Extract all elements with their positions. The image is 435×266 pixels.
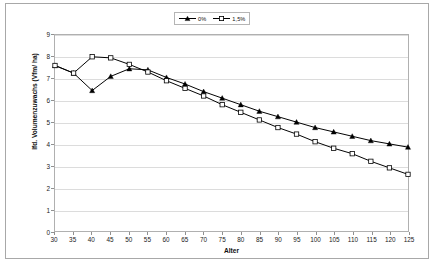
x-tick-mark — [54, 232, 55, 235]
y-tick-label: 1 — [36, 207, 50, 214]
x-tick-label: 125 — [398, 236, 420, 243]
x-tick-mark — [203, 232, 204, 235]
data-point — [239, 110, 243, 114]
data-point — [313, 140, 317, 144]
x-tick-label: 115 — [361, 236, 383, 243]
data-point — [71, 71, 75, 75]
x-tick-label: 85 — [249, 236, 271, 243]
x-tick-label: 35 — [62, 236, 84, 243]
x-tick-mark — [353, 232, 354, 235]
x-tick-mark — [316, 232, 317, 235]
x-tick-mark — [372, 232, 373, 235]
series-1 — [52, 63, 410, 149]
x-tick-mark — [185, 232, 186, 235]
legend-entry-1[interactable]: 1,5% — [213, 14, 245, 23]
data-point — [387, 166, 391, 170]
data-point — [108, 74, 113, 79]
legend-label-1: 1,5% — [232, 15, 245, 23]
legend-marker-filled-triangle-icon — [179, 14, 196, 23]
x-tick-mark — [129, 232, 130, 235]
y-tick-label: 7 — [36, 75, 50, 82]
series-2 — [53, 55, 410, 177]
legend-entry-0[interactable]: 0% — [179, 14, 206, 23]
legend-marker-open-square-icon — [213, 14, 230, 23]
plot-area — [54, 34, 409, 232]
x-tick-mark — [334, 232, 335, 235]
data-point — [257, 118, 261, 122]
x-tick-label: 75 — [211, 236, 233, 243]
y-tick-label: 4 — [36, 141, 50, 148]
x-tick-label: 40 — [80, 236, 102, 243]
data-point — [164, 79, 168, 83]
data-point — [109, 56, 113, 60]
series-line — [55, 65, 408, 147]
figure-frame: 0% 1,5% 0123456789 303540455055606570758… — [5, 3, 429, 259]
x-tick-mark — [260, 232, 261, 235]
x-tick-mark — [409, 232, 410, 235]
data-point — [406, 172, 410, 176]
x-tick-mark — [278, 232, 279, 235]
y-tick-label: 9 — [36, 31, 50, 38]
chart-root: 0% 1,5% 0123456789 303540455055606570758… — [6, 4, 430, 260]
x-tick-label: 60 — [155, 236, 177, 243]
data-point — [183, 86, 187, 90]
x-axis-title: Alter — [54, 247, 409, 254]
x-tick-mark — [297, 232, 298, 235]
data-point — [276, 125, 280, 129]
data-point — [146, 70, 150, 74]
series-line — [55, 57, 408, 175]
data-point — [331, 146, 335, 150]
data-point — [201, 94, 205, 98]
y-tick-label: 8 — [36, 53, 50, 60]
x-tick-label: 55 — [136, 236, 158, 243]
data-point — [127, 62, 131, 66]
x-tick-label: 95 — [286, 236, 308, 243]
x-tick-label: 70 — [192, 236, 214, 243]
x-tick-label: 50 — [118, 236, 140, 243]
x-tick-label: 90 — [267, 236, 289, 243]
x-tick-label: 105 — [323, 236, 345, 243]
data-point — [201, 89, 206, 94]
x-tick-label: 100 — [305, 236, 327, 243]
x-tick-mark — [222, 232, 223, 235]
x-tick-label: 65 — [174, 236, 196, 243]
x-tick-mark — [390, 232, 391, 235]
y-tick-label: 3 — [36, 163, 50, 170]
y-tick-label: 0 — [36, 229, 50, 236]
y-tick-label: 6 — [36, 97, 50, 104]
x-tick-mark — [166, 232, 167, 235]
x-tick-label: 30 — [43, 236, 65, 243]
legend-label-0: 0% — [198, 15, 206, 23]
x-tick-label: 45 — [99, 236, 121, 243]
x-tick-mark — [110, 232, 111, 235]
x-tick-label: 80 — [230, 236, 252, 243]
y-tick-label: 2 — [36, 185, 50, 192]
x-tick-mark — [147, 232, 148, 235]
series-layer — [55, 35, 408, 231]
y-axis-title: lfd. Volumenzuwachs (Vfm/ ha) — [31, 27, 38, 177]
x-tick-mark — [73, 232, 74, 235]
chart-legend: 0% 1,5% — [174, 12, 250, 25]
data-point — [369, 159, 373, 163]
y-tick-mark — [51, 232, 54, 233]
x-tick-label: 110 — [342, 236, 364, 243]
data-point — [90, 55, 94, 59]
data-point — [350, 152, 354, 156]
y-tick-label: 5 — [36, 119, 50, 126]
data-point — [294, 132, 298, 136]
x-tick-mark — [241, 232, 242, 235]
data-point — [220, 103, 224, 107]
x-tick-label: 120 — [379, 236, 401, 243]
data-point — [53, 63, 57, 67]
x-tick-mark — [91, 232, 92, 235]
